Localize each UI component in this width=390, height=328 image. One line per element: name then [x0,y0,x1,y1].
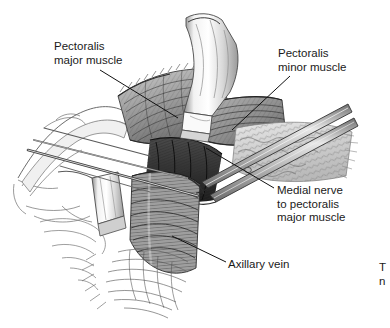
label-pectoralis-major: Pectoralis major muscle [54,40,122,67]
label-pectoralis-minor: Pectoralis minor muscle [278,47,346,74]
label-medial-nerve: Medial nerve to pectoralis major muscle [277,184,345,225]
label-axillary-vein: Axillary vein [228,258,289,272]
label-clipped-right-edge: T n [379,261,386,288]
figure-illustration: 3 [0,0,390,328]
